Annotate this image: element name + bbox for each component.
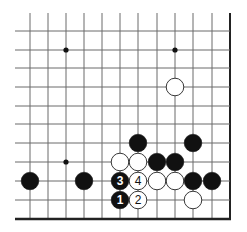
move-number: 3 [117, 174, 124, 188]
white-stone-icon [148, 172, 166, 190]
star-point [63, 159, 68, 164]
black-stone [184, 172, 202, 190]
black-stone [166, 153, 184, 171]
white-stone [166, 78, 184, 96]
black-stone-icon [166, 153, 184, 171]
black-stone-icon [21, 172, 39, 190]
white-stone-icon [129, 153, 147, 171]
star-point [172, 47, 177, 52]
white-stone-move-2: 2 [129, 191, 147, 209]
black-stone [148, 153, 166, 171]
black-stone [21, 172, 39, 190]
black-stone [184, 134, 202, 152]
black-stone-icon [129, 134, 147, 152]
white-stone [184, 191, 202, 209]
white-stone [166, 172, 184, 190]
black-stone-icon [184, 172, 202, 190]
black-stone-icon [184, 134, 202, 152]
black-stone-move-1: 1 [111, 191, 129, 209]
black-stone [75, 172, 93, 190]
white-stone-icon [111, 153, 129, 171]
black-stone-icon [75, 172, 93, 190]
move-number: 1 [117, 193, 124, 207]
move-number: 2 [135, 193, 142, 207]
white-stone-move-4: 4 [129, 172, 147, 190]
white-stone [129, 153, 147, 171]
black-stone [129, 134, 147, 152]
white-stone-icon [166, 78, 184, 96]
black-stone-move-3: 3 [111, 172, 129, 190]
star-point [63, 47, 68, 52]
white-stone [111, 153, 129, 171]
white-stone-icon [166, 172, 184, 190]
black-stone [203, 172, 221, 190]
black-stone-icon [148, 153, 166, 171]
white-stone-icon [184, 191, 202, 209]
go-board: 3412 [0, 0, 247, 232]
move-number: 4 [135, 174, 142, 188]
white-stone [148, 172, 166, 190]
black-stone-icon [203, 172, 221, 190]
